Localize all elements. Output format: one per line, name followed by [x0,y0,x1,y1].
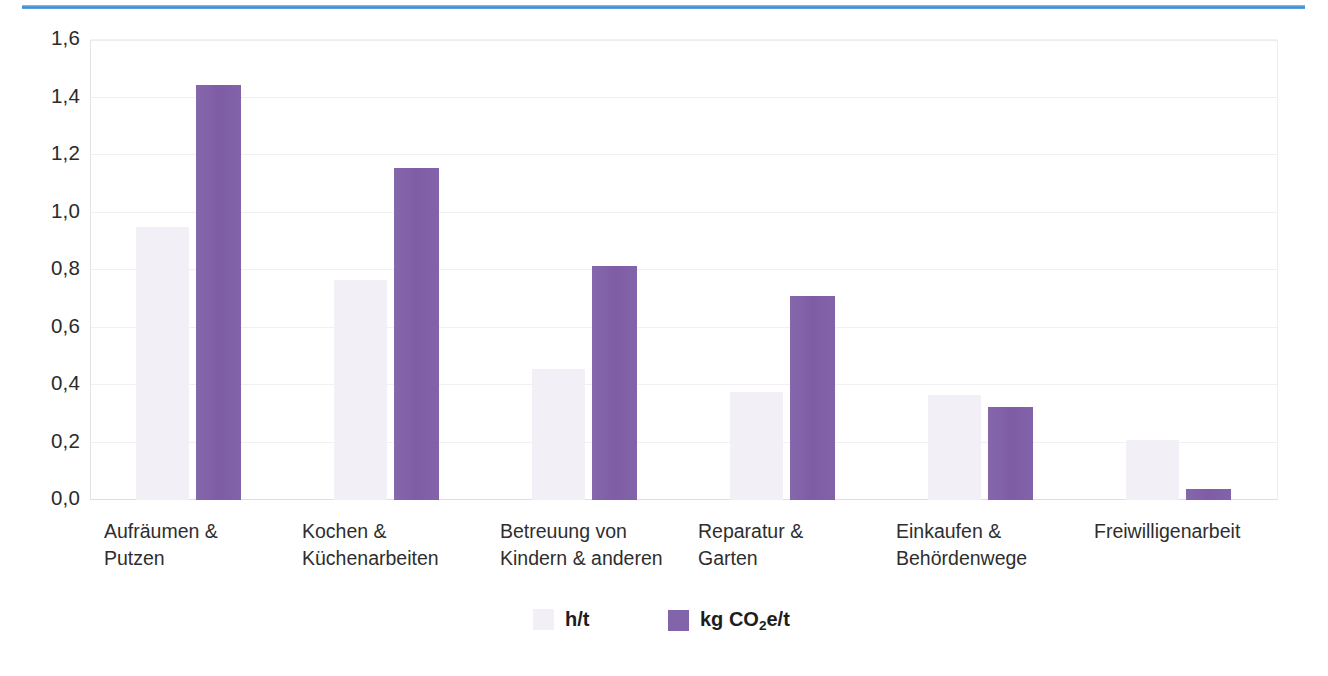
bar-series-h-per-t [730,392,783,500]
y-axis-tick-label: 1,2 [10,141,80,165]
bar-series-h-per-t [136,227,189,500]
y-axis-tick-label: 0,0 [10,486,80,510]
legend-color-swatch [668,610,689,631]
y-axis-tick-label: 0,6 [10,314,80,338]
bar-group [685,40,883,500]
y-axis-tick-label: 0,8 [10,256,80,280]
x-axis-category-label: Betreuung von Kindern & anderen [500,518,718,572]
x-axis-category-label: Kochen & Küchenarbeiten [302,518,520,572]
chart-page: 0,00,20,40,60,81,01,21,41,6 Aufräumen & … [0,0,1328,676]
legend-label: h/t [565,608,589,631]
legend-label: kg CO2e/t [700,608,790,633]
bar-series-kg-co2e-per-t [790,296,835,500]
x-axis-category-label: Einkaufen & Behördenwege [896,518,1114,572]
x-axis-category-label: Freiwilligenarbeit [1094,518,1312,545]
y-axis-tick-label: 1,4 [10,84,80,108]
y-axis-tick-label: 1,6 [10,26,80,50]
bar-group [91,40,289,500]
bar-series-kg-co2e-per-t [1186,489,1231,501]
y-axis-tick-label: 0,2 [10,429,80,453]
bar-series-h-per-t [928,395,981,500]
bar-series-kg-co2e-per-t [592,266,637,500]
bar-series-h-per-t [334,280,387,500]
bar-series-h-per-t [532,369,585,500]
bar-group [1081,40,1279,500]
bar-series-kg-co2e-per-t [196,85,241,500]
legend-color-swatch [533,609,554,630]
bar-group [487,40,685,500]
y-axis-tick-label: 1,0 [10,199,80,223]
x-axis-category-label: Aufräumen & Putzen [104,518,322,572]
x-axis-category-label: Reparatur & Garten [698,518,916,572]
y-axis-tick-label: 0,4 [10,371,80,395]
bar-group [289,40,487,500]
bar-series-kg-co2e-per-t [394,168,439,500]
plot-area [90,40,1278,500]
legend-item: h/t [533,608,589,631]
bar-series-h-per-t [1126,440,1179,500]
legend-item: kg CO2e/t [668,608,790,633]
chart-legend: h/tkg CO2e/t [0,608,1328,648]
chart-canvas [90,40,1278,502]
bar-series-kg-co2e-per-t [988,407,1033,500]
top-divider-rule [22,5,1305,9]
bar-group [883,40,1081,500]
